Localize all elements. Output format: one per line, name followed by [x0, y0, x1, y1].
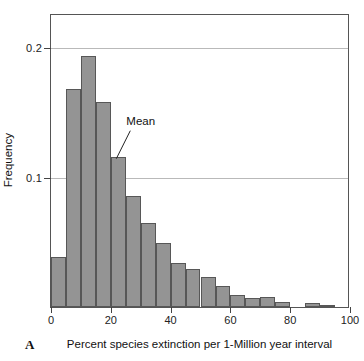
histogram-bar — [305, 303, 320, 307]
y-tick-label: 0.1 — [26, 172, 42, 184]
histogram-bar — [126, 196, 141, 307]
histogram-bar — [260, 297, 275, 308]
x-tick — [111, 307, 112, 313]
histogram-bar — [81, 56, 96, 307]
x-tick — [51, 307, 52, 313]
plot-area: 0.10.2 020406080100 Mean — [50, 14, 349, 308]
x-tick-label: 80 — [284, 314, 296, 326]
histogram-bar — [216, 286, 231, 307]
x-tick-label: 40 — [164, 314, 176, 326]
x-tick — [230, 307, 231, 313]
histogram-bar — [230, 295, 245, 307]
x-tick-label: 60 — [224, 314, 236, 326]
x-tick — [290, 307, 291, 313]
histogram-bar — [111, 157, 126, 307]
histogram-bar — [156, 243, 171, 307]
histogram-bar — [141, 223, 156, 307]
histogram-bar — [51, 257, 66, 307]
y-tick — [44, 178, 51, 179]
histogram-figure: 0.10.2 020406080100 Mean Frequency Perce… — [0, 0, 364, 361]
panel-letter: A — [25, 337, 34, 353]
mean-annotation-label: Mean — [126, 115, 155, 127]
histogram-bar — [96, 102, 111, 307]
histogram-bars — [51, 15, 348, 307]
x-tick — [171, 307, 172, 313]
y-axis-title: Frequency — [2, 133, 14, 187]
x-tick-label: 20 — [105, 314, 117, 326]
x-tick — [350, 307, 351, 313]
histogram-bar — [201, 277, 216, 307]
histogram-bar — [320, 305, 335, 307]
y-tick-label: 0.2 — [26, 42, 42, 54]
x-tick-label: 0 — [48, 314, 54, 326]
x-tick-label: 100 — [341, 314, 359, 326]
y-tick — [44, 48, 51, 49]
histogram-bar — [171, 263, 186, 307]
histogram-bar — [66, 89, 81, 307]
histogram-bar — [275, 302, 290, 307]
x-axis-title: Percent species extinction per 1-Million… — [50, 338, 349, 350]
histogram-bar — [186, 269, 201, 307]
histogram-bar — [245, 298, 260, 307]
